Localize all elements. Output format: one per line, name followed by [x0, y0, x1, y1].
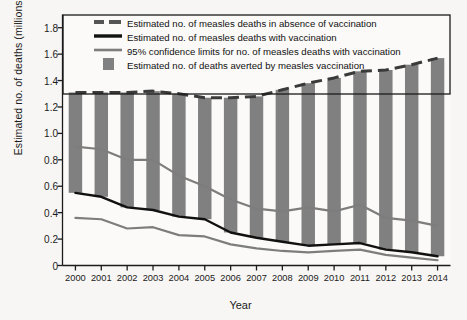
legend-label: Estimated no. of measles deaths with vac… [127, 31, 337, 45]
averted-bar [276, 90, 289, 242]
legend-marker [93, 58, 123, 74]
solid-black-line-swatch-icon [93, 30, 123, 42]
averted-bar [198, 98, 211, 220]
x-tick-label: 2009 [298, 273, 319, 283]
solid-gray-line-swatch-icon [93, 44, 123, 56]
x-tick-label: 2001 [91, 273, 112, 283]
x-tick-label: 2008 [272, 273, 293, 283]
chart-canvas: Estimated no. of deaths (millions) 00.20… [0, 0, 467, 320]
x-tick-label: 2002 [117, 273, 138, 283]
gray-square-swatch-icon [93, 58, 123, 70]
averted-bar [120, 92, 133, 207]
legend-item-0: Estimated no. of measles deaths in absen… [93, 17, 443, 31]
averted-bar [69, 92, 82, 192]
dashed-line-swatch-icon [93, 16, 123, 28]
legend-label: 95% confidence limits for no. of measles… [127, 45, 401, 59]
x-tick-label: 2006 [220, 273, 241, 283]
x-tick-label: 2005 [194, 273, 215, 283]
averted-bar [250, 96, 263, 237]
x-axis-title: Year [0, 299, 467, 311]
legend-item-1: Estimated no. of measles deaths with vac… [93, 31, 443, 45]
legend-label: Estimated no. of deaths averted by measl… [127, 59, 364, 73]
x-tick-label: 2000 [65, 273, 86, 283]
legend-item-2: 95% confidence limits for no. of measles… [93, 45, 443, 59]
x-tick-label: 2012 [375, 273, 396, 283]
legend-label: Estimated no. of measles deaths in absen… [127, 17, 377, 31]
averted-bar [379, 70, 392, 250]
x-tick-label: 2007 [246, 273, 267, 283]
x-tick-label: 2013 [401, 273, 422, 283]
averted-bar [95, 92, 108, 196]
averted-bar [302, 83, 315, 245]
chart-legend: Estimated no. of measles deaths in absen… [93, 17, 443, 73]
averted-bar [353, 71, 366, 243]
x-tick-label: 2004 [169, 273, 190, 283]
x-tick-label: 2010 [324, 273, 345, 283]
averted-bar [327, 78, 340, 244]
x-tick-label: 2014 [427, 273, 448, 283]
x-tick-label: 2003 [143, 273, 164, 283]
x-axis-title-text: Year [229, 299, 251, 311]
averted-bar [146, 91, 159, 210]
averted-bar [224, 98, 237, 233]
averted-bar [172, 94, 185, 217]
x-axis-tick-labels: 2000200120022003200420052006200720082009… [0, 267, 467, 289]
legend-item-3: Estimated no. of deaths averted by measl… [93, 59, 443, 73]
x-tick-label: 2011 [350, 273, 370, 283]
averted-bar [405, 65, 418, 253]
